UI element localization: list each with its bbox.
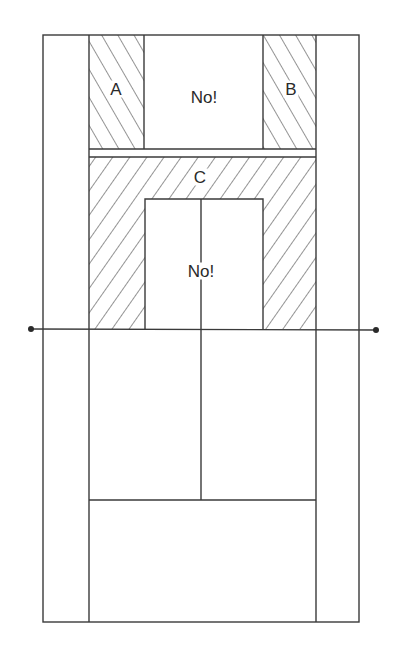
label-no-top: No! <box>189 89 219 106</box>
label-region-a: A <box>108 81 123 98</box>
axis-right-endpoint <box>373 327 379 333</box>
label-region-b: B <box>283 81 298 98</box>
axis-left-endpoint <box>28 326 34 332</box>
horizontal-axis-line <box>31 329 376 330</box>
label-no-middle: No! <box>186 263 216 280</box>
label-region-c: C <box>192 169 208 186</box>
